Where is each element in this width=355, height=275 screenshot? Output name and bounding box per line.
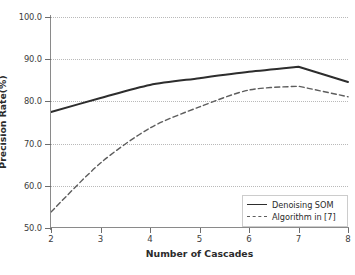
y-axis-tick: [45, 144, 51, 145]
y-axis-title: Precision Rate(%): [0, 75, 8, 168]
y-axis-tick: [45, 101, 51, 102]
x-axis-tick: [348, 228, 349, 233]
x-axis-tick: [51, 228, 52, 233]
x-axis-tick: [150, 228, 151, 233]
legend-item-label: Algorithm in [7]: [272, 212, 336, 222]
legend[interactable]: Denoising SOM Algorithm in [7]: [242, 195, 348, 227]
y-axis-tick: [45, 17, 51, 18]
x-axis-tick-label: 6: [237, 234, 261, 244]
x-axis-tick-label: 8: [336, 234, 355, 244]
x-axis-tick-label: 2: [39, 234, 63, 244]
x-axis-tick-label: 7: [287, 234, 311, 244]
x-axis-title: Number of Cascades: [51, 248, 348, 259]
y-axis-tick: [45, 186, 51, 187]
x-axis-tick-label: 4: [138, 234, 162, 244]
x-axis-tick: [200, 228, 201, 233]
series-line-1: [51, 67, 348, 112]
y-axis-spine: [50, 15, 51, 230]
x-axis-tick: [249, 228, 250, 233]
series-line-2: [51, 86, 348, 212]
x-axis-tick: [101, 228, 102, 233]
y-axis-tick: [45, 59, 51, 60]
legend-item-denoising-som[interactable]: Denoising SOM: [246, 199, 343, 211]
y-axis-tick-label: 50.0: [0, 223, 42, 233]
dashed-line-icon: [246, 212, 268, 222]
y-axis-tick-label: 100.0: [0, 12, 42, 22]
legend-item-algorithm-in-7[interactable]: Algorithm in [7]: [246, 211, 343, 223]
x-axis-tick-label: 5: [188, 234, 212, 244]
solid-line-icon: [246, 200, 268, 210]
legend-item-label: Denoising SOM: [272, 200, 333, 210]
y-axis-tick-label: 90.0: [0, 54, 42, 64]
y-axis-tick-label: 60.0: [0, 181, 42, 191]
x-axis-tick: [299, 228, 300, 233]
chart-figure: 50.060.070.080.090.0100.0 2345678 Number…: [0, 0, 355, 275]
x-axis-tick-label: 3: [89, 234, 113, 244]
